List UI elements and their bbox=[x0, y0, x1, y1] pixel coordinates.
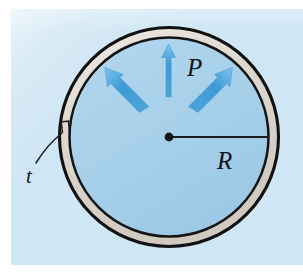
label-pressure: P bbox=[187, 55, 202, 80]
center-dot bbox=[165, 133, 174, 142]
pressure-vessel-figure: P R t bbox=[0, 0, 303, 277]
vessel-drawing bbox=[0, 0, 303, 277]
label-radius: R bbox=[217, 148, 232, 173]
label-thickness: t bbox=[26, 166, 32, 187]
thickness-leader bbox=[36, 134, 62, 164]
